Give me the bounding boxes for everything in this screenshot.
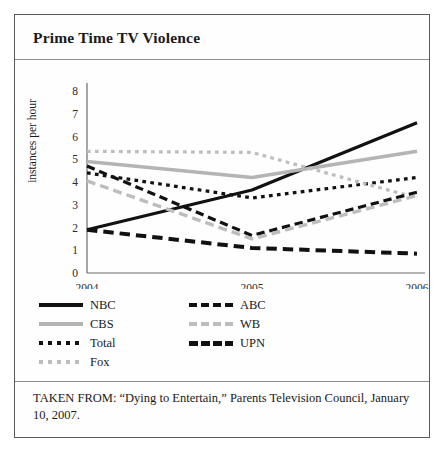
legend-divider [15, 381, 429, 382]
legend-item-fox[interactable]: Fox [39, 354, 109, 370]
legend-label: Fox [90, 355, 109, 369]
x-tick-label: 2005 [241, 282, 264, 289]
y-tick-label: 8 [72, 85, 78, 97]
y-tick-label: 5 [72, 153, 78, 165]
legend-label: ABC [240, 298, 266, 312]
y-tick-label: 0 [72, 267, 78, 279]
legend-swatch-abc [189, 303, 233, 307]
legend-swatch-wb [189, 322, 233, 326]
y-tick-label: 1 [72, 244, 78, 256]
legend-label: WB [240, 317, 260, 331]
y-tick-label: 6 [72, 131, 78, 143]
line-chart: 012345678200420052006 [15, 61, 429, 289]
legend-item-wb[interactable]: WB [189, 316, 260, 332]
legend-item-total[interactable]: Total [39, 335, 116, 351]
y-tick-label: 7 [72, 108, 78, 120]
x-tick-label: 2006 [406, 282, 429, 289]
legend-swatch-fox [39, 360, 83, 364]
legend-item-abc[interactable]: ABC [189, 297, 266, 313]
legend-swatch-cbs [39, 322, 83, 326]
series-line-upn [87, 230, 417, 254]
legend-label: UPN [240, 336, 265, 350]
legend-label: Total [90, 336, 116, 350]
chart-plot-area: instances per hour 012345678200420052006 [15, 61, 429, 289]
legend-item-cbs[interactable]: CBS [39, 316, 114, 332]
figure-panel: Prime Time TV Violence instances per hou… [14, 14, 430, 438]
y-tick-label: 3 [72, 199, 78, 211]
legend-label: CBS [90, 317, 114, 331]
y-axis-label: instances per hour [26, 66, 38, 216]
legend-swatch-upn [189, 341, 233, 346]
legend-swatch-total [39, 341, 83, 345]
legend-item-nbc[interactable]: NBC [39, 297, 116, 313]
page-title: Prime Time TV Violence [33, 29, 200, 47]
x-tick-label: 2004 [76, 282, 99, 289]
legend-swatch-nbc [39, 303, 83, 307]
y-tick-label: 4 [72, 176, 78, 188]
y-tick-label: 2 [72, 222, 78, 234]
source-note: TAKEN FROM: “Dying to Entertain,” Parent… [33, 390, 413, 424]
chart-legend: NBCABCCBSWBTotalUPNFox [39, 297, 409, 371]
legend-label: NBC [90, 298, 116, 312]
legend-item-upn[interactable]: UPN [189, 335, 265, 351]
series-line-cbs [87, 151, 417, 177]
title-divider [15, 59, 429, 60]
